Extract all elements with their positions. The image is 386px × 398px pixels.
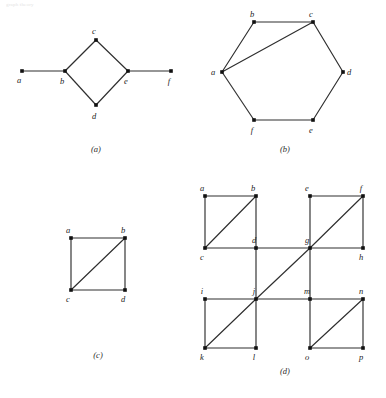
figure-d-caption: (d) — [265, 366, 305, 376]
vertex-label: e — [305, 183, 309, 193]
graph-vertex — [203, 297, 207, 301]
graph-vertex — [361, 246, 365, 250]
figure-page: graph theory abcdef (a) abcdef (b) abcd … — [0, 0, 386, 398]
vertex-label: g — [305, 235, 309, 245]
graph-vertex — [254, 194, 258, 198]
vertex-label: f — [360, 183, 364, 193]
graph-edge — [205, 299, 256, 348]
graph-vertex — [203, 246, 207, 250]
vertex-label: n — [359, 286, 363, 296]
graph-vertex — [203, 194, 207, 198]
graph-edge — [310, 299, 363, 348]
graph-vertex — [308, 346, 312, 350]
vertex-label: i — [201, 286, 204, 296]
graph-vertex — [361, 346, 365, 350]
vertex-label: c — [200, 252, 204, 262]
graph-vertex — [308, 246, 312, 250]
graph-vertex — [308, 194, 312, 198]
graph-vertex — [203, 346, 207, 350]
graph-edge — [205, 196, 256, 248]
vertex-label: b — [251, 183, 255, 193]
graph-vertex — [254, 246, 258, 250]
graph-vertex — [361, 297, 365, 301]
vertex-label: h — [359, 252, 363, 262]
graph-vertex — [361, 194, 365, 198]
vertex-label: k — [200, 352, 204, 362]
graph-vertex — [254, 346, 258, 350]
vertex-label: m — [304, 286, 310, 296]
graph-vertex — [254, 297, 258, 301]
vertex-label: p — [358, 352, 363, 362]
graph-edge — [256, 248, 310, 299]
figure-d-canvas: abefcdghijmnklop — [0, 0, 386, 398]
graph-vertex — [308, 297, 312, 301]
vertex-label: o — [305, 352, 309, 362]
vertex-label: j — [252, 286, 256, 296]
vertex-label: l — [253, 352, 256, 362]
vertex-label: a — [200, 183, 204, 193]
graph-edge — [310, 196, 363, 248]
figure-d: abefcdghijmnklop — [0, 0, 386, 398]
